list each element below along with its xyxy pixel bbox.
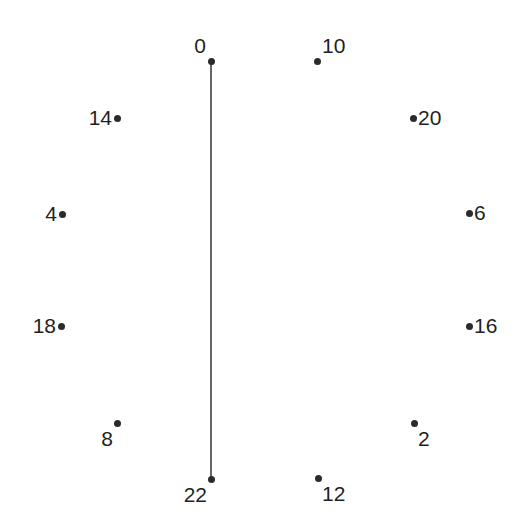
graph-plot-canvas: 0101420461816822212 — [0, 0, 529, 530]
node-label: 2 — [418, 428, 430, 449]
node-dot-icon[interactable] — [410, 115, 417, 122]
node-label: 18 — [33, 315, 56, 336]
node-label: 6 — [474, 202, 486, 223]
node-label: 4 — [45, 203, 57, 224]
node-dot-icon[interactable] — [466, 210, 473, 217]
node-label: 22 — [184, 484, 207, 505]
node-dot-icon[interactable] — [114, 115, 121, 122]
node-label: 8 — [101, 428, 113, 449]
node-dot-icon[interactable] — [314, 58, 321, 65]
node-dot-icon[interactable] — [208, 476, 215, 483]
node-dot-icon[interactable] — [315, 475, 322, 482]
node-dot-icon[interactable] — [411, 420, 418, 427]
node-dot-icon[interactable] — [466, 323, 473, 330]
node-label: 0 — [194, 35, 206, 56]
node-label: 14 — [89, 107, 112, 128]
edge-layer — [0, 0, 529, 530]
node-label: 10 — [322, 35, 345, 56]
node-dot-icon[interactable] — [59, 211, 66, 218]
node-dot-icon[interactable] — [114, 420, 121, 427]
node-dot-icon[interactable] — [208, 58, 215, 65]
node-label: 12 — [322, 483, 345, 504]
node-label: 16 — [474, 315, 497, 336]
node-dot-icon[interactable] — [58, 323, 65, 330]
node-label: 20 — [418, 107, 441, 128]
